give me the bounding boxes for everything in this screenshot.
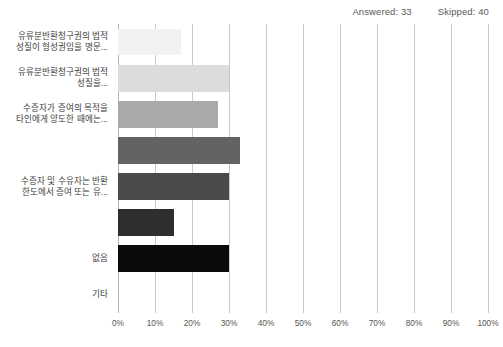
y-axis-category-labels: 유류분반환청구권의 법적 성질이 형성권임을 명문...유류분반환청구권의 법적…	[0, 24, 113, 313]
bar-row	[118, 132, 488, 168]
bar-row	[118, 169, 488, 205]
x-tick-label-0pct: 0%	[112, 318, 124, 328]
bar-row	[118, 96, 488, 132]
y-axis-label-4: 수증자 및 수유자는 반환 한도에서 증여 또는 유...	[0, 169, 113, 205]
bar-6[interactable]	[118, 245, 229, 272]
x-tick-label-90pct: 90%	[443, 318, 460, 328]
bar-row	[118, 277, 488, 313]
y-axis-label-5	[0, 205, 113, 241]
x-tick-label-80pct: 80%	[406, 318, 423, 328]
y-axis-label-6: 없음	[0, 241, 113, 277]
x-tick-label-70pct: 70%	[369, 318, 386, 328]
x-tick-label-100pct: 100%	[477, 318, 498, 328]
answered-count: Answered: 33	[352, 6, 411, 17]
bar-rows	[118, 24, 488, 313]
y-axis-label-2: 수증자가 증여의 목적을 타인에게 양도한 때에는...	[0, 96, 113, 132]
bar-3[interactable]	[118, 137, 240, 164]
gridline-100pct	[488, 24, 489, 313]
bar-5[interactable]	[118, 209, 174, 236]
x-tick-label-50pct: 50%	[295, 318, 312, 328]
bar-row	[118, 60, 488, 96]
x-tick-label-40pct: 40%	[258, 318, 275, 328]
y-axis-label-3	[0, 132, 113, 168]
survey-response-summary: Answered: 33 Skipped: 40	[352, 6, 489, 17]
skipped-count: Skipped: 40	[438, 6, 489, 17]
bar-row	[118, 205, 488, 241]
bar-1[interactable]	[118, 65, 229, 92]
y-axis-label-7: 기타	[0, 277, 113, 313]
bar-row	[118, 24, 488, 60]
x-tick-label-30pct: 30%	[221, 318, 238, 328]
x-tick-label-20pct: 20%	[184, 318, 201, 328]
y-axis-label-1: 유류분반환청구권의 법적 성질을...	[0, 60, 113, 96]
survey-bar-chart: Answered: 33 Skipped: 40 유류분반환청구권의 법적 성질…	[0, 0, 503, 347]
y-axis-label-0: 유류분반환청구권의 법적 성질이 형성권임을 명문...	[0, 24, 113, 60]
bar-row	[118, 241, 488, 277]
bar-2[interactable]	[118, 101, 218, 128]
plot-area	[118, 24, 488, 313]
x-tick-label-10pct: 10%	[147, 318, 164, 328]
x-axis-tick-labels: 0%10%20%30%40%50%60%70%80%90%100%	[118, 318, 488, 332]
x-tick-label-60pct: 60%	[332, 318, 349, 328]
bar-4[interactable]	[118, 173, 229, 200]
bar-0[interactable]	[118, 29, 181, 56]
